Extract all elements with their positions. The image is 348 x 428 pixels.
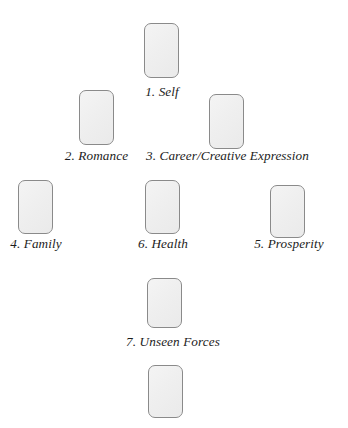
card-position-6-health[interactable] bbox=[145, 180, 180, 234]
card-unlabeled-bottom[interactable] bbox=[148, 365, 183, 418]
card-position-4-family[interactable] bbox=[18, 180, 53, 234]
card-label-position-5: 5. Prosperity bbox=[248, 236, 330, 252]
card-label-position-4: 4. Family bbox=[0, 236, 72, 252]
card-position-3-career-creative-expression[interactable] bbox=[209, 94, 244, 149]
card-position-1-self[interactable] bbox=[144, 23, 179, 78]
card-label-position-7: 7. Unseen Forces bbox=[110, 334, 236, 350]
card-label-position-2: 2. Romance bbox=[55, 148, 138, 164]
card-position-2-romance[interactable] bbox=[79, 90, 114, 145]
spread-canvas: 1. Self 2. Romance 3. Career/Creative Ex… bbox=[0, 0, 348, 428]
card-label-position-3: 3. Career/Creative Expression bbox=[146, 148, 309, 164]
card-position-5-prosperity[interactable] bbox=[270, 185, 305, 238]
card-position-7-unseen-forces[interactable] bbox=[147, 278, 182, 328]
card-label-position-1: 1. Self bbox=[121, 84, 203, 100]
card-label-position-6: 6. Health bbox=[127, 236, 199, 252]
